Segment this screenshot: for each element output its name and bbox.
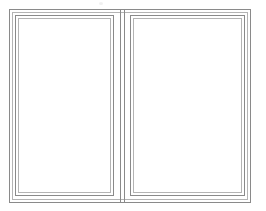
scan-smudge-artifact xyxy=(99,2,103,5)
left-panel-glazing xyxy=(19,19,110,192)
right-panel[interactable] xyxy=(131,16,245,196)
window-frame-figure xyxy=(0,0,266,211)
right-panel-glazing xyxy=(134,19,241,192)
left-panel[interactable] xyxy=(16,16,114,196)
drawing-canvas: Two-Panel Window Frame Elevation Rectang… xyxy=(0,0,266,211)
